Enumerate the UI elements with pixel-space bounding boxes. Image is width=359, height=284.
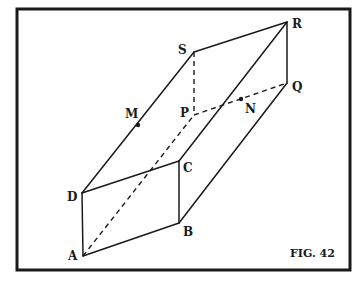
edge-DA [82,193,83,256]
edge-CR [179,22,287,161]
label-Q: Q [292,80,302,94]
point-M-dot [136,123,140,127]
label-S: S [178,43,187,57]
edge-AP-hidden [83,115,194,256]
label-P: P [180,106,189,120]
label-C: C [183,161,193,175]
parallelepiped-diagram: A B C D P Q R S M N FIG. 42 [0,0,359,284]
label-A: A [67,249,78,263]
edge-DS [82,52,194,193]
edge-CD [82,161,179,193]
edge-SR [194,22,287,52]
label-B: B [183,225,193,239]
point-N-dot [239,97,243,101]
edge-AB [83,223,179,256]
label-M: M [125,107,138,121]
label-D: D [67,190,77,204]
label-R: R [292,17,303,31]
edge-QB [179,83,287,223]
label-N: N [245,102,256,116]
figure-caption: FIG. 42 [290,247,335,260]
